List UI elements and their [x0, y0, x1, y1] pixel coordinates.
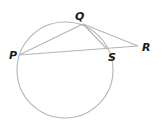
segment-qs — [83, 24, 107, 49]
label-q: Q — [75, 10, 84, 23]
label-s: S — [108, 51, 116, 64]
circle — [17, 22, 113, 118]
geometry-diagram: P Q S R — [0, 0, 162, 125]
label-p: P — [9, 49, 17, 62]
segment-qr — [83, 24, 138, 46]
label-r: R — [142, 41, 150, 54]
segment-pr — [19, 46, 138, 55]
